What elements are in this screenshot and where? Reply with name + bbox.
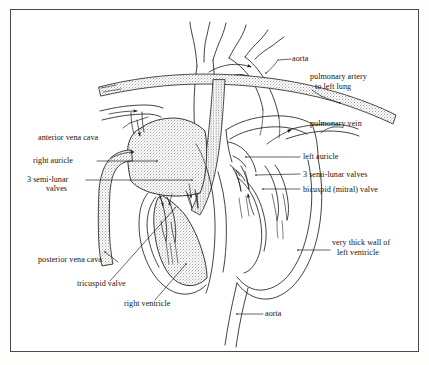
label-thick-wall-line2: left ventricle: [337, 248, 379, 258]
label-bicuspid-mitral-valve: bicuspid (mitral) valve: [303, 185, 378, 195]
label-aorta-bottom: aorta: [265, 309, 281, 319]
right-auricle-chamber: [128, 118, 207, 196]
label-right-auricle: right auricle: [33, 156, 73, 166]
label-tricuspid-valve: tricuspid valve: [77, 279, 126, 289]
aortic-arch-branches: [190, 22, 284, 66]
label-anterior-vena-cava: anterior vena cava: [38, 133, 98, 143]
label-pulmonary-artery-line2: to left lung: [315, 82, 351, 92]
left-ventricle-cavity: [238, 178, 266, 273]
aorta-arch: [194, 57, 279, 144]
label-right-ventricle: right ventricle: [124, 299, 170, 309]
label-left-auricle: left auricle: [303, 152, 338, 162]
label-thick-wall-line1: very thick wall of: [332, 238, 390, 248]
figure-page: aorta pulmonary artery to left lung pulm…: [0, 0, 429, 365]
label-posterior-vena-cava: posterior vena cava: [38, 255, 102, 265]
descending-aorta: [225, 283, 248, 347]
semilunar-valves-left: [233, 166, 249, 218]
label-semilunar-valves-right-line2: valves: [46, 184, 67, 194]
label-aorta-top: aorta: [292, 54, 308, 64]
bicuspid-mitral-valve: [265, 165, 289, 239]
label-pulmonary-vein: pulmonary vein: [310, 119, 362, 129]
label-pulmonary-artery: pulmonary artery: [310, 72, 367, 82]
label-semilunar-valves-left: 3 semi-lunar valves: [303, 170, 367, 180]
